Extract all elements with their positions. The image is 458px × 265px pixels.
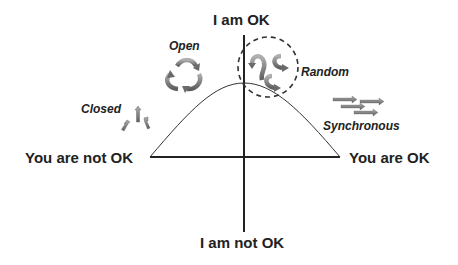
axis-label-bottom: I am not OK (200, 234, 284, 251)
parallel-right-arrows-icon (333, 96, 384, 116)
axis-label-left: You are not OK (25, 149, 133, 166)
label-open: Open (169, 39, 200, 53)
axis-label-top: I am OK (213, 11, 270, 28)
label-synchronous: Synchronous (323, 119, 400, 133)
scattered-curved-arrows-icon (252, 56, 282, 88)
label-closed: Closed (81, 102, 121, 116)
random-dashed-circle (238, 37, 298, 97)
three-upward-arrows-icon (122, 106, 151, 131)
axis-label-right: You are OK (349, 149, 430, 166)
label-random: Random (301, 65, 349, 79)
